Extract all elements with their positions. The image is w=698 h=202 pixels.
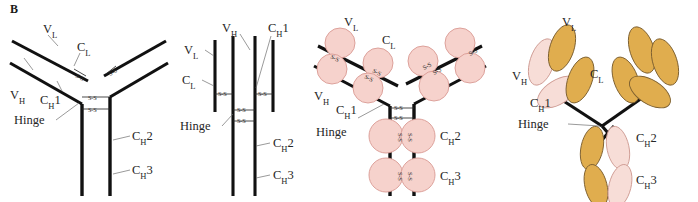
label-vh-ellipses: VH <box>512 69 527 87</box>
leader-vl-linear <box>205 50 214 56</box>
label-hinge-linear: Hinge <box>180 119 211 133</box>
panel-domain-circles-diagram: S-S S-S S-S S-S S-S S-S S-S <box>310 0 490 202</box>
panel-line-diagram: S-S S-S S-S S-S <box>0 0 178 202</box>
label-ch3-ellipses: CH3 <box>636 173 657 191</box>
label-ch3-circles: CH3 <box>440 169 461 187</box>
leader-cl-linear <box>202 80 214 86</box>
label-vh-linear: VH <box>222 21 237 39</box>
domain-vh-right <box>455 53 485 83</box>
leader-vh <box>24 58 33 70</box>
svg-text:S-S: S-S <box>394 104 403 111</box>
domain-ch2-right <box>401 119 435 153</box>
domain-ch3-right <box>401 158 435 192</box>
label-hinge-circles: Hinge <box>316 125 347 139</box>
disulfide-bond-light-heavy-left-linear: S-S <box>215 90 233 97</box>
label-vh-circles: VH <box>314 89 329 107</box>
panel-domain-ellipses-diagram: VL CL VH CH1 Hinge CH2 CH3 <box>490 0 698 202</box>
leader-ch2 <box>113 136 130 140</box>
antibody-structure-figure: B S-S S-S <box>0 0 698 202</box>
disulfide-bond-hinge-upper: S-S <box>82 94 110 101</box>
domain-ch3-right-ellipse <box>604 162 636 202</box>
hinge-arm-right-ellipses <box>602 98 642 126</box>
leader-vh-linear <box>240 34 250 50</box>
leader-ch3-linear <box>256 175 270 178</box>
label-ch1-circles: CH1 <box>336 103 357 121</box>
label-vh: VH <box>10 88 25 106</box>
disulfide-bond-hinge-upper-linear: S-S <box>233 106 255 113</box>
panel-linear-diagram: S-S S-S S-S S-S <box>178 0 310 202</box>
disulfide-bond-hinge-lower-linear: S-S <box>233 117 255 124</box>
domain-vl-left <box>325 28 355 58</box>
hinge-arm-left-ellipses <box>562 100 602 126</box>
svg-text:S-S: S-S <box>218 90 227 97</box>
svg-text:S-S: S-S <box>397 133 404 142</box>
label-hinge: Hinge <box>14 113 45 127</box>
svg-text:S-S: S-S <box>88 94 97 101</box>
leader-ch2-linear <box>256 143 270 146</box>
label-ch2: CH2 <box>132 129 153 147</box>
label-ch2-linear: CH2 <box>273 136 294 154</box>
svg-text:S-S: S-S <box>88 106 97 113</box>
label-ch3-linear: CH3 <box>273 168 294 186</box>
leader-ch3 <box>113 170 130 174</box>
label-cl-circles: CL <box>382 33 396 51</box>
leader-hinge-linear <box>222 114 233 126</box>
disulfide-bond-hinge-lower: S-S <box>82 106 110 113</box>
leader-hinge-circles <box>358 104 384 118</box>
svg-text:S-S: S-S <box>237 117 246 124</box>
label-ch1: CH1 <box>40 93 61 111</box>
disulfide-hinge-lower-circles: S-S <box>390 114 414 121</box>
disulfide-bond-light-heavy-right-linear: S-S <box>255 90 273 97</box>
label-cl-linear: CL <box>182 73 196 91</box>
svg-text:S-S: S-S <box>407 133 414 142</box>
svg-text:S-S: S-S <box>394 114 403 121</box>
disulfide-hinge-upper-circles: S-S <box>390 104 414 111</box>
svg-text:S-S: S-S <box>237 106 246 113</box>
leader-hinge-ellipses <box>568 124 600 126</box>
label-ch2-ellipses: CH2 <box>636 131 657 149</box>
leader-cl <box>74 53 80 66</box>
label-vl-linear: VL <box>184 43 198 61</box>
svg-text:S-S: S-S <box>397 172 404 181</box>
svg-text:S-S: S-S <box>407 172 414 181</box>
label-ch2-circles: CH2 <box>440 129 461 147</box>
leader-ch1-linear <box>256 36 271 88</box>
label-hinge-ellipses: Hinge <box>518 117 549 131</box>
svg-text:S-S: S-S <box>258 90 267 97</box>
label-ch3: CH3 <box>132 163 153 181</box>
